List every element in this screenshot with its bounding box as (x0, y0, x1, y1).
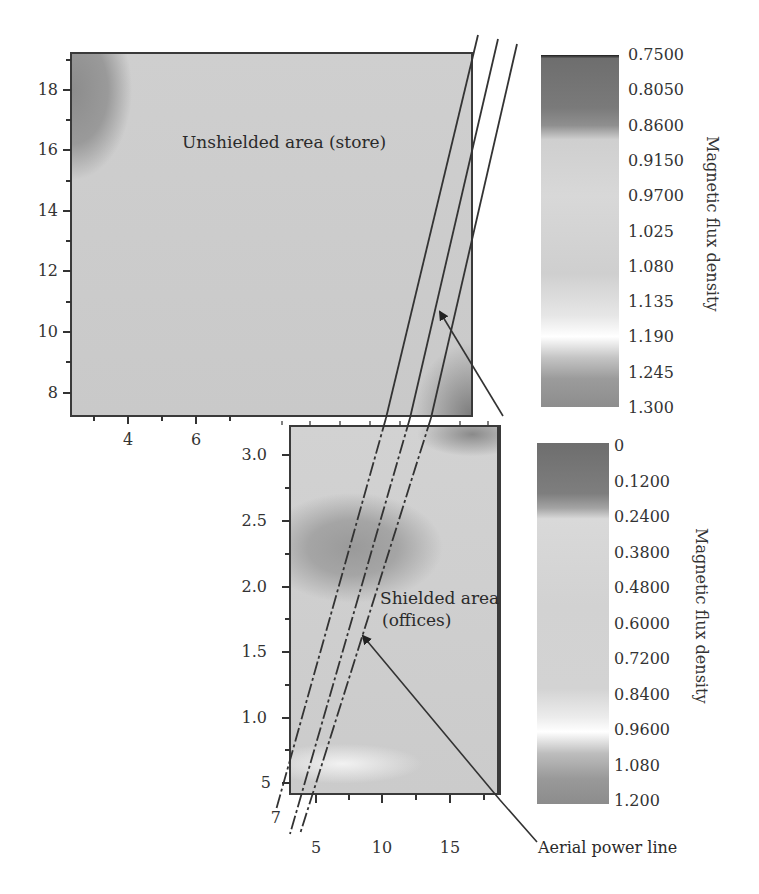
top-colorbar-label: 1.245 (628, 365, 674, 381)
bottom-colorbar-label: 0 (614, 438, 624, 454)
bottom-ytick-label: 7 (241, 810, 281, 826)
top-ytick-label: 8 (18, 385, 58, 401)
top-colorbar-label: 0.7500 (628, 47, 684, 63)
bottom-xtick-label: 5 (301, 840, 331, 856)
top-colorbar-label: 1.135 (628, 294, 674, 310)
top-xtick-label: 4 (113, 432, 143, 448)
bottom-colorbar-label: 0.1200 (614, 474, 670, 490)
bottom-colorbar (537, 443, 609, 804)
bottom-colorbar-label: 0.6000 (614, 616, 670, 632)
top-colorbar-label: 1.080 (628, 259, 674, 275)
bottom-colorbar-label: 0.9600 (614, 722, 670, 738)
bottom-xtick-label: 15 (435, 840, 465, 856)
top-colorbar-label: 1.190 (628, 329, 674, 345)
unshielded-area-label: Unshielded area (store) (182, 132, 386, 152)
top-ytick-label: 10 (18, 324, 58, 340)
top-colorbar-label: 0.9700 (628, 188, 684, 204)
unshielded-heatmap-plot (70, 52, 473, 417)
shielded-area-label: Shielded area (380, 588, 499, 608)
top-ytick-label: 18 (18, 82, 58, 98)
bottom-ytick-label: 1.5 (227, 644, 267, 660)
bottom-colorbar-label: 1.080 (614, 758, 660, 774)
top-colorbar-label: 0.8050 (628, 82, 684, 98)
bottom-colorbar-label: 0.7200 (614, 651, 670, 667)
bottom-ytick-label: 2.0 (227, 579, 267, 595)
bottom-colorbar-title: Magnetic flux density (692, 528, 711, 703)
top-colorbar-title: Magnetic flux density (703, 136, 722, 311)
bottom-colorbar-label: 0.3800 (614, 545, 670, 561)
aerial-power-line-label: Aerial power line (538, 838, 677, 858)
bottom-ytick-label: 2.5 (227, 513, 267, 529)
bottom-ytick-label: 1.0 (227, 710, 267, 726)
bottom-colorbar-label: 0.4800 (614, 580, 670, 596)
top-ytick-label: 12 (18, 263, 58, 279)
top-xaxis-ticks (94, 416, 230, 424)
top-ytick-label: 14 (18, 203, 58, 219)
top-colorbar-label: 1.025 (628, 224, 674, 240)
bottom-colorbar-label: 1.200 (614, 793, 660, 809)
bottom-colorbar-label: 0.8400 (614, 687, 670, 703)
bottom-xtick-label: 10 (367, 840, 397, 856)
top-ytick-label: 16 (18, 142, 58, 158)
top-colorbar (541, 55, 619, 407)
top-xtick-label: 6 (181, 432, 211, 448)
top-colorbar-label: 0.9150 (628, 153, 684, 169)
bottom-ytick-label: 5 (231, 775, 271, 791)
bottom-colorbar-label: 0.2400 (614, 509, 670, 525)
shielded-area-sublabel: (offices) (382, 610, 451, 630)
bottom-xaxis-ticks (316, 795, 484, 803)
top-colorbar-label: 1.300 (628, 400, 674, 416)
bottom-ytick-label: 3.0 (227, 447, 267, 463)
top-colorbar-label: 0.8600 (628, 118, 684, 134)
